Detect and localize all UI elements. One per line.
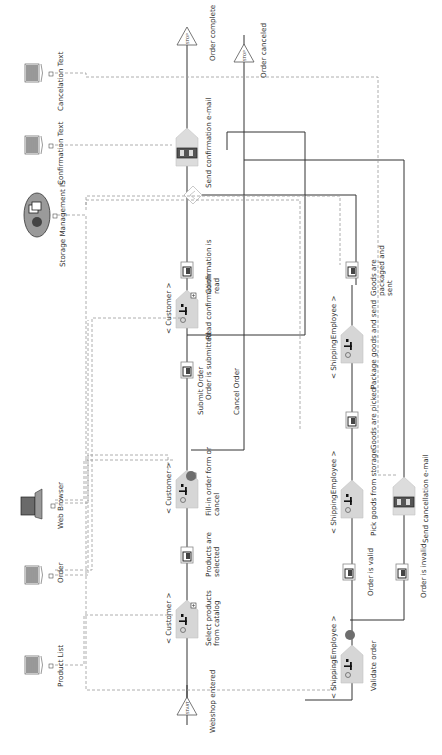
- resource-label-browser: Web Browser: [57, 482, 65, 529]
- desk-leg-icon: [344, 665, 352, 667]
- role-shippingemployee: < ShippingEmployee >: [330, 450, 338, 534]
- link-icon: [49, 72, 53, 76]
- desk-leg-icon: [179, 490, 187, 492]
- document-curl: [41, 64, 43, 82]
- resource-order: [25, 566, 53, 584]
- server-slot-icon: [180, 150, 184, 156]
- assoc-productlist-select: [55, 615, 175, 665]
- event-invalid: [396, 564, 408, 580]
- xor-connector: [345, 630, 355, 640]
- start-event: START: [177, 697, 197, 715]
- monitor-icon: [346, 494, 349, 497]
- desk-leg-icon: [179, 620, 187, 622]
- function-label-sendconf: Send confirmation e-mail: [205, 97, 213, 188]
- function-pick: [341, 480, 363, 518]
- function-validate: [341, 645, 363, 683]
- document-curl: [41, 566, 43, 584]
- resource-browser: [21, 489, 55, 519]
- function-label-fill: Fill-in order form or cancel: [205, 446, 221, 516]
- cancel-email-line: [244, 160, 404, 435]
- mail-icon-body: [351, 418, 355, 424]
- server-slot-icon: [397, 499, 401, 505]
- event-label-submitted: Order is submitted: [205, 333, 213, 400]
- event-confread: [181, 262, 193, 278]
- monitor-icon: [346, 339, 349, 342]
- function-read: [176, 290, 198, 328]
- link-icon: [49, 144, 53, 148]
- function-shape: [176, 128, 198, 166]
- end-marker: STOP: [242, 50, 247, 61]
- function-select: [176, 600, 198, 638]
- function-label-pick: Pick goods from storage: [370, 449, 378, 536]
- role-shippingemployee: < ShippingEmployee >: [330, 615, 338, 699]
- event-packaged: [346, 262, 358, 278]
- event-label-canceled: Order canceled: [260, 23, 268, 78]
- assoc-browser-read: [55, 320, 88, 503]
- assoc-order-read: [55, 318, 185, 570]
- mail-icon-body: [186, 553, 190, 559]
- end-marker: STOP: [185, 33, 190, 44]
- resource-productlist: [25, 656, 53, 674]
- function-label-validate: Validate order: [370, 641, 378, 691]
- link-icon: [53, 214, 57, 218]
- function-package: [341, 325, 363, 363]
- event-submitted: [181, 362, 193, 378]
- server-slot-icon: [189, 150, 193, 156]
- function-shape: [341, 645, 363, 683]
- resource-label-order: Order: [57, 563, 65, 583]
- end-event-canceled: STOP: [234, 44, 254, 62]
- laptop-base: [35, 489, 42, 519]
- gear-icon: [32, 217, 42, 227]
- link-icon: [49, 574, 53, 578]
- role-customer: < Customer >: [165, 282, 173, 334]
- assoc-order-fill: [55, 455, 168, 575]
- resource-label-conftext: Confirmation Text: [57, 122, 65, 185]
- desk-leg-icon: [344, 500, 352, 502]
- resource-canceltext: [25, 64, 53, 82]
- mail-icon-body: [351, 268, 355, 274]
- event-label-selected: Products are selected: [205, 517, 221, 577]
- link-icon: [49, 664, 53, 668]
- resource-storage: [24, 193, 57, 237]
- desk-leg-icon: [179, 310, 187, 312]
- start-marker: START: [185, 701, 190, 714]
- merge-from-packaging: [202, 195, 356, 285]
- event-label-packaged: Goods are packaged and sent: [370, 234, 394, 296]
- resource-conftext: [25, 136, 53, 154]
- mail-icon-body: [186, 368, 190, 374]
- resource-label-productlist: Product List: [57, 645, 65, 687]
- role-customer: < Customer >: [165, 592, 173, 644]
- event-label-valid: Order is valid: [367, 548, 375, 596]
- window-icon: [32, 202, 41, 210]
- system-icon: [24, 193, 50, 237]
- function-sendconf: [176, 128, 198, 166]
- event-label-complete: Order complete: [209, 5, 217, 61]
- assoc-browser-fill: [55, 460, 175, 500]
- link-icon: [51, 504, 55, 508]
- function-label-package: Package goods and send: [370, 300, 378, 389]
- end-event-complete: STOP: [177, 27, 197, 45]
- function-shape: [341, 325, 363, 363]
- document-curl: [41, 136, 43, 154]
- server-slot-icon: [406, 499, 410, 505]
- resource-label-canceltext: Cancelation Text: [57, 52, 65, 111]
- monitor-icon: [181, 614, 184, 617]
- desk-leg-icon: [344, 345, 352, 347]
- monitor-icon: [346, 659, 349, 662]
- event-valid: [343, 564, 355, 580]
- document-curl: [41, 656, 43, 674]
- function-shape: [341, 480, 363, 518]
- function-label-select: Select products from catalog: [205, 576, 221, 646]
- event-label-start: Webshop entered: [209, 670, 217, 733]
- branch-label-cancel: Cancel Order: [233, 368, 241, 415]
- function-sendcancel: [393, 477, 415, 515]
- role-customer: < Customer >: [165, 462, 173, 514]
- event-label-invalid: Order is invalid: [420, 543, 428, 598]
- function-label-sendcancel: Send cancellation e-mail: [422, 454, 430, 543]
- laptop-icon: [21, 497, 35, 515]
- mail-icon-body: [401, 570, 405, 576]
- function-shape: [393, 477, 415, 515]
- mail-icon-body: [348, 570, 352, 576]
- event-label-picked: Goods are picked: [370, 388, 378, 450]
- event-selected: [181, 547, 193, 563]
